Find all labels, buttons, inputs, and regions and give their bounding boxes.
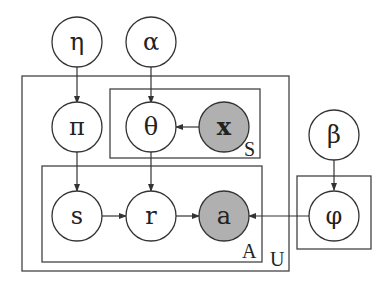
- node-beta: β: [309, 110, 359, 160]
- node-label-theta: θ: [144, 113, 158, 141]
- node-r: r: [126, 191, 176, 241]
- node-label-phi: φ: [326, 202, 343, 230]
- node-pi: π: [52, 102, 102, 152]
- plate-label-U: U: [270, 248, 285, 270]
- node-label-s: s: [71, 202, 83, 230]
- node-s: s: [52, 191, 102, 241]
- node-label-eta: η: [70, 28, 84, 56]
- node-a-observed: a: [199, 191, 249, 241]
- node-eta: η: [52, 17, 102, 67]
- plate-label-S: S: [244, 138, 255, 160]
- graphical-model-diagram: U S A η α π θ x: [0, 0, 389, 284]
- node-x-observed: x: [199, 102, 249, 152]
- node-label-beta: β: [327, 121, 341, 149]
- node-label-x: x: [217, 112, 232, 141]
- node-label-a: a: [217, 202, 231, 230]
- node-phi: φ: [309, 191, 359, 241]
- node-label-r: r: [145, 202, 157, 230]
- node-label-alpha: α: [143, 28, 159, 56]
- node-theta: θ: [126, 102, 176, 152]
- plate-label-A: A: [242, 240, 257, 262]
- node-alpha: α: [126, 17, 176, 67]
- node-label-pi: π: [69, 113, 85, 141]
